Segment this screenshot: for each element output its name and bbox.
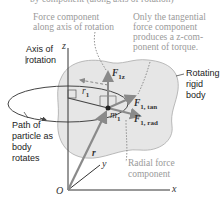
rotating-body-label-3: body bbox=[186, 90, 206, 101]
vector-label-F1tan: F1, tan bbox=[134, 98, 157, 111]
path-label-1: Path of bbox=[12, 120, 41, 131]
vector-label-r1: r1 bbox=[82, 86, 89, 99]
radial-force-label-2: component bbox=[128, 169, 170, 180]
path-label-4: rotates bbox=[12, 153, 40, 164]
tangential-note-1: Only the tangential bbox=[133, 12, 206, 23]
axial-force-label-1: Force component bbox=[33, 12, 99, 23]
rotating-body-label-1: Rotating bbox=[186, 68, 220, 79]
axis-of-rotation-label-2: rotation bbox=[26, 55, 56, 66]
y-axis-label: y bbox=[102, 158, 106, 169]
origin-label: O bbox=[56, 185, 63, 196]
rotating-body-label-2: rigid bbox=[186, 79, 203, 90]
axial-force-label-2: along axis of rotation bbox=[33, 22, 114, 33]
vector-label-r: r bbox=[92, 148, 96, 158]
radial-force-label-1: Radial force bbox=[128, 158, 175, 169]
tangential-note-4: ponent of torque. bbox=[133, 42, 198, 53]
axis-of-rotation-label-1: Axis of bbox=[26, 44, 53, 55]
z-axis-label: z bbox=[62, 40, 66, 51]
tangential-note-3: produces a z-com- bbox=[133, 32, 203, 43]
cutoff-caption: by component (along axis of rotation) bbox=[30, 0, 174, 5]
vector-label-F1rad: F1, rad bbox=[134, 114, 158, 127]
tangential-note-2: force component bbox=[133, 22, 197, 33]
path-label-2: particle as bbox=[12, 131, 53, 142]
vector-label-F1z: F1z bbox=[112, 68, 125, 81]
mass-label-m1: m1 bbox=[110, 110, 120, 123]
path-label-3: body bbox=[12, 142, 32, 153]
torque-diagram: by component (along axis of rotation) Fo… bbox=[0, 0, 223, 214]
x-axis-label: x bbox=[172, 183, 176, 194]
y-axis-line bbox=[68, 165, 100, 190]
